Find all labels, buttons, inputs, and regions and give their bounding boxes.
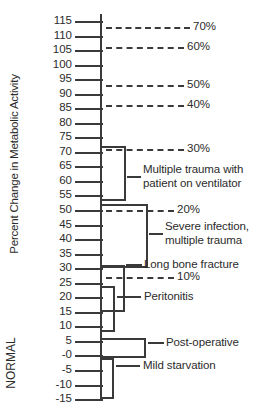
y-tick-label: 65 <box>44 158 72 173</box>
category-label: Multiple trauma withpatient on ventilato… <box>143 162 243 190</box>
y-tick-mark <box>75 181 103 183</box>
y-tick-mark <box>75 123 103 125</box>
category-label-line1: Post-operative <box>166 336 239 348</box>
reference-line-label: 60% <box>187 40 210 53</box>
range-bar <box>100 358 114 399</box>
y-tick-mark <box>75 370 103 372</box>
category-label: Post-operative <box>166 335 239 349</box>
category-label: Mild starvation <box>143 358 216 372</box>
y-tick-label: 60 <box>44 173 72 188</box>
reference-line-70 <box>106 27 190 29</box>
y-tick-mark <box>75 341 103 343</box>
y-tick-mark <box>75 195 103 197</box>
y-tick-mark <box>75 283 103 285</box>
reference-line-label: 70% <box>193 20 216 33</box>
caption-leader-line <box>149 233 163 235</box>
y-tick-mark <box>75 50 103 52</box>
y-tick-mark <box>75 36 103 38</box>
y-tick-label: 55 <box>44 187 72 202</box>
category-label: Severe infection,multiple trauma <box>165 219 249 247</box>
y-tick-label: 95 <box>44 71 72 86</box>
caption-leader-line <box>117 296 141 298</box>
category-label: Peritonitis <box>144 289 193 303</box>
y-tick-mark <box>75 239 103 241</box>
y-tick-label: -10 <box>44 377 72 392</box>
category-label-line1: Severe infection, <box>165 220 249 232</box>
y-tick-label: 5 <box>44 333 72 348</box>
category-label-line1: Long bone fracture <box>144 258 239 270</box>
y-axis-title: Percent Change in Metabolic Activity <box>5 29 23 299</box>
y-tick-label: 50 <box>44 202 72 217</box>
y-tick-mark <box>75 65 103 67</box>
caption-leader-line <box>127 176 141 178</box>
y-tick-mark <box>75 152 103 154</box>
y-tick-label: 115 <box>44 13 72 28</box>
y-tick-label: 20 <box>44 289 72 304</box>
category-label-line1: Mild starvation <box>143 359 216 371</box>
caption-leader-line <box>148 342 164 344</box>
category-label-line1: Peritonitis <box>144 290 193 302</box>
y-tick-mark <box>75 268 103 270</box>
category-label-line2: patient on ventilator <box>143 176 243 190</box>
reference-line-label: 20% <box>177 203 200 216</box>
reference-line-label: 10% <box>177 270 200 283</box>
caption-leader-line <box>126 264 142 266</box>
y-tick-label: 40 <box>44 231 72 246</box>
caption-leader-line <box>116 365 140 367</box>
y-tick-mark <box>75 210 103 212</box>
y-tick-mark <box>75 108 103 110</box>
y-tick-label: 35 <box>44 246 72 261</box>
y-tick-label: 110 <box>44 28 72 43</box>
y-tick-label: 45 <box>44 217 72 232</box>
reference-line-label: 40% <box>187 98 210 111</box>
y-tick-label: 90 <box>44 86 72 101</box>
category-label-line1: Multiple trauma with <box>143 163 243 175</box>
y-tick-mark <box>75 326 103 328</box>
y-tick-mark <box>75 355 103 357</box>
y-tick-label: 105 <box>44 42 72 57</box>
y-tick-mark <box>75 312 103 314</box>
y-tick-label: 30 <box>44 260 72 275</box>
y-tick-label: -5 <box>44 362 72 377</box>
y-tick-label: 75 <box>44 129 72 144</box>
y-tick-mark <box>75 79 103 81</box>
y-tick-mark <box>75 137 103 139</box>
y-tick-mark <box>75 166 103 168</box>
y-tick-mark <box>75 399 103 401</box>
y-tick-label: 25 <box>44 275 72 290</box>
reference-line-60 <box>106 47 184 49</box>
y-tick-mark <box>75 385 103 387</box>
category-label-line2: multiple trauma <box>165 233 249 247</box>
y-tick-label: 80 <box>44 115 72 130</box>
y-tick-label: 100 <box>44 57 72 72</box>
range-bar <box>100 204 148 268</box>
y-tick-mark <box>75 225 103 227</box>
y-tick-mark <box>75 297 103 299</box>
category-label: Long bone fracture <box>144 257 239 271</box>
y-tick-label: 70 <box>44 144 72 159</box>
y-tick-mark <box>75 21 103 23</box>
reference-line-50 <box>106 85 184 87</box>
reference-line-label: 30% <box>187 142 210 155</box>
y-tick-label: -15 <box>44 391 72 406</box>
y-tick-label: 10 <box>44 318 72 333</box>
range-bar <box>100 286 115 333</box>
range-bar <box>100 338 146 358</box>
reference-line-40 <box>106 105 184 107</box>
normal-annotation-label: NORMAL <box>3 328 19 398</box>
y-tick-mark <box>75 254 103 256</box>
reference-line-label: 50% <box>187 78 210 91</box>
y-tick-mark <box>75 94 103 96</box>
y-tick-label: 85 <box>44 100 72 115</box>
y-tick-label: 15 <box>44 304 72 319</box>
range-bar <box>100 146 126 201</box>
y-tick-label: -0 <box>44 347 72 362</box>
metabolic-activity-chart: Percent Change in Metabolic Activity NOR… <box>0 0 257 410</box>
